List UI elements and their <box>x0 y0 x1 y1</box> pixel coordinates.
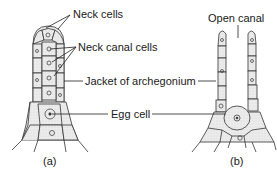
label-jacket: Jacket of archegonium <box>85 75 196 87</box>
label-egg-cell: Egg cell <box>111 108 150 120</box>
label-neck-cells: Neck cells <box>73 8 123 20</box>
label-neck-canal-cells: Neck canal cells <box>78 41 157 53</box>
archegonium-a <box>12 26 88 152</box>
archegonium-b <box>192 31 276 152</box>
archegonium-diagram <box>0 0 277 175</box>
label-open-canal: Open canal <box>208 12 264 24</box>
caption-b: (b) <box>230 155 243 167</box>
caption-a: (a) <box>43 155 56 167</box>
